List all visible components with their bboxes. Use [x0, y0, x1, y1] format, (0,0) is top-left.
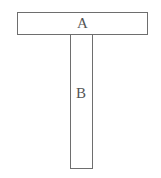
rectangle-b	[70, 34, 93, 169]
label-a: A	[77, 16, 88, 31]
label-b: B	[76, 86, 86, 101]
